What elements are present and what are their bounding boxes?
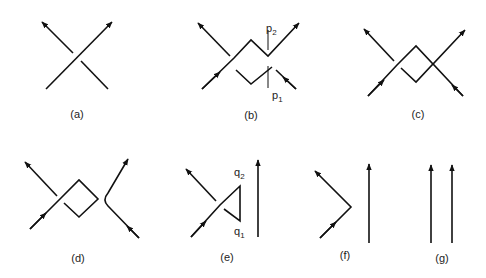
panel-b: p2 p1 (b) — [198, 22, 299, 121]
over-strand-arrow — [46, 22, 112, 89]
strand-nw-arrow — [364, 29, 394, 61]
mid-arrow-sw — [191, 221, 206, 237]
point-label-p1: p1 — [272, 89, 283, 104]
under-strand-upper-arrow — [42, 22, 73, 53]
panel-d: (d) — [25, 159, 139, 264]
strand-with-loop — [30, 180, 98, 229]
loop-lower — [401, 64, 463, 96]
point-label-q2: q2 — [234, 166, 245, 181]
panel-a: (a) — [42, 22, 112, 120]
panel-label-c: (c) — [412, 108, 425, 120]
mid-arrow-sw — [320, 222, 336, 238]
knot-moves-diagram: (a) p2 p1 (b) (c) (d) q2 — [0, 0, 486, 278]
panel-label-a: (a) — [70, 108, 83, 120]
panel-c: (c) — [364, 29, 465, 120]
under-strand-lower — [81, 61, 108, 89]
panel-g: (g) — [431, 165, 452, 264]
strand-nw-arrow — [198, 23, 230, 56]
mid-arrow-sw — [202, 72, 220, 89]
over-strand-with-loop — [368, 30, 465, 96]
panel-label-e: (e) — [220, 251, 233, 263]
panel-label-f: (f) — [340, 249, 350, 261]
strand-nw-arrow — [186, 169, 216, 201]
panel-label-d: (d) — [71, 252, 84, 264]
mid-arrow-se — [127, 226, 139, 238]
panel-f: (f) — [315, 164, 369, 261]
mid-arrow-se — [452, 85, 463, 96]
mid-arrow-sw — [30, 213, 46, 229]
loop-lower — [236, 67, 272, 84]
mid-arrow-se — [283, 77, 296, 89]
panel-e: q2 q1 (e) — [186, 160, 258, 263]
strand-nw-arrow — [25, 162, 57, 196]
mid-arrow-sw — [368, 80, 384, 96]
panel-label-g: (g) — [435, 252, 448, 264]
point-label-q1: q1 — [234, 225, 245, 240]
panel-label-b: (b) — [244, 109, 257, 121]
bent-strand — [105, 159, 139, 238]
bent-strand — [315, 171, 351, 238]
